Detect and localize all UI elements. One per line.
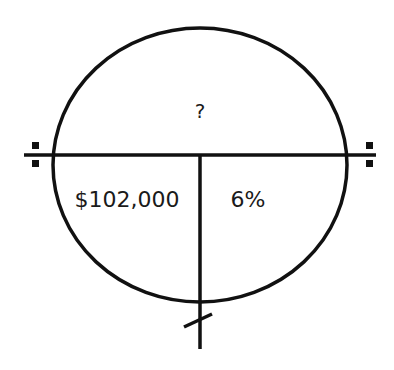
bottom-left-label: $102,000: [75, 187, 180, 212]
right-divide-dot-bottom: [366, 160, 373, 167]
right-divide-dot-top: [366, 142, 373, 149]
slash-mark: [184, 314, 212, 327]
bottom-right-label: 6%: [231, 187, 266, 212]
top-section-label: ?: [195, 99, 206, 123]
left-divide-dot-bottom: [32, 160, 39, 167]
tvm-circle-diagram: ? $102,000 6%: [0, 0, 394, 370]
left-divide-dot-top: [32, 142, 39, 149]
